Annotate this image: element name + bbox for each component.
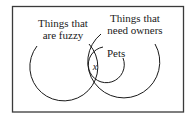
region-marker-x: x [92, 61, 98, 72]
fuzzy-label-line-2: are fuzzy [43, 29, 84, 41]
owners-label-line-1: Things that [110, 12, 160, 24]
fuzzy-set-circle [30, 44, 98, 101]
venn-diagram: Things that are fuzzy Things that need o… [0, 0, 189, 116]
owners-set-circle [88, 34, 160, 98]
fuzzy-label-line-1: Things that [38, 17, 88, 29]
owners-label-line-2: need owners [107, 24, 162, 36]
pets-label: Pets [107, 47, 125, 59]
